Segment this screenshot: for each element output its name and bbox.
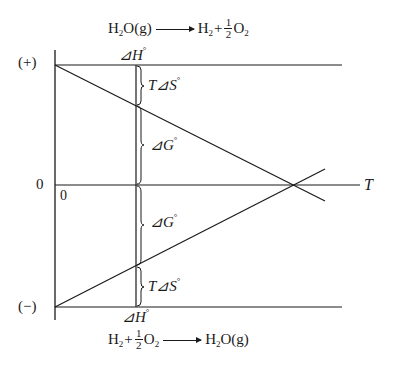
t-delta-s-top-label: T⊿S° (148, 78, 180, 93)
brace-t-delta-s-bottom (137, 267, 144, 306)
eq-top-product2: O2 (233, 21, 248, 36)
reaction-arrow-icon (163, 340, 201, 341)
eq-top-reactant: H2O(g) (108, 21, 152, 36)
zero-x-label: 0 (60, 189, 67, 203)
eq-top-product1: H2 (198, 21, 213, 36)
temperature-axis-label: T (364, 177, 373, 193)
eq-bottom-product: H2O(g) (205, 332, 249, 347)
zero-y-label: 0 (36, 177, 44, 192)
t-delta-s-bottom-label: T⊿S° (148, 279, 180, 294)
eq-bottom-reactant1: H2 (108, 332, 123, 347)
brace-delta-g-top (137, 106, 144, 184)
delta-g-decomposition-line (55, 65, 325, 201)
eq-bottom-plus: + (124, 332, 132, 347)
diagram-canvas (0, 0, 393, 376)
decomposition-equation: H2O(g) H2 + 12 O2 (108, 17, 249, 40)
delta-g-top-label: ⊿G° (150, 138, 177, 153)
eq-bottom-fraction: 12 (135, 328, 143, 351)
eq-top-plus: + (214, 21, 222, 36)
reaction-arrow-icon (156, 29, 194, 30)
eq-top-fraction: 12 (224, 17, 232, 40)
negative-axis-label: (−) (18, 299, 36, 314)
delta-g-bottom-label: ⊿G° (150, 215, 177, 230)
delta-h-top-label: ⊿H° (119, 48, 146, 63)
brace-t-delta-s-top (137, 66, 144, 105)
delta-h-bottom-label: ⊿H° (122, 310, 149, 325)
eq-bottom-reactant2: O2 (144, 332, 159, 347)
positive-axis-label: (+) (18, 55, 36, 70)
brace-delta-g-bottom (137, 186, 144, 265)
formation-equation: H2 + 12 O2 H2O(g) (108, 328, 249, 351)
delta-g-formation-line (55, 169, 325, 307)
